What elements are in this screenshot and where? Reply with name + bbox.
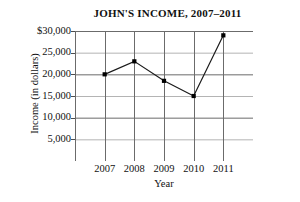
x-axis-tick-labels: 20072008200920102011 bbox=[75, 163, 253, 177]
y-axis-tick-label: 25,000 bbox=[15, 47, 71, 57]
y-axis-tick-label: 10,000 bbox=[15, 112, 71, 122]
y-axis-tick-label: 5,000 bbox=[15, 134, 71, 144]
y-axis-tick-label: 15,000 bbox=[15, 91, 71, 101]
chart-title: JOHN'S INCOME, 2007–2011 bbox=[40, 7, 295, 19]
income-line-chart: JOHN'S INCOME, 2007–2011 Income (in doll… bbox=[0, 0, 300, 202]
x-axis-tick-label: 2011 bbox=[203, 163, 243, 174]
data-point-marker bbox=[192, 94, 196, 98]
plot-area bbox=[75, 31, 253, 161]
data-point-marker bbox=[103, 72, 107, 76]
data-point-marker bbox=[221, 33, 225, 37]
data-point-marker bbox=[132, 59, 136, 63]
y-axis-tick-labels: $30,00025,00020,00015,00010,0005,000 bbox=[13, 0, 71, 202]
data-point-marker bbox=[162, 79, 166, 83]
y-axis-tick-label: $30,000 bbox=[15, 26, 71, 36]
y-axis-tick-label: 20,000 bbox=[15, 69, 71, 79]
plot-svg bbox=[75, 31, 253, 161]
x-axis-title: Year bbox=[74, 178, 254, 189]
